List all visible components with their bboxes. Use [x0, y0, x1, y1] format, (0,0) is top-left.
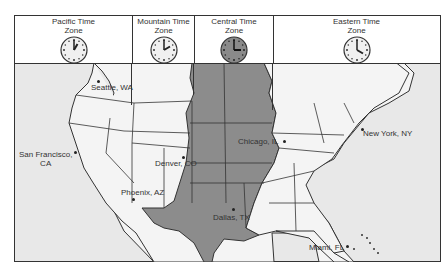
zone-label: Central TimeZone — [195, 17, 273, 35]
zone-mountain: Mountain TimeZone — [132, 16, 194, 63]
clock-icon — [218, 35, 250, 65]
city-label-seattle: Seattle, WA — [91, 83, 133, 92]
clock-icon — [341, 35, 373, 65]
us-time-zone-map — [14, 63, 441, 262]
clock-icon — [58, 35, 90, 65]
city-marker-dallas — [232, 208, 235, 211]
zone-central: Central TimeZone — [194, 16, 273, 63]
city-marker-phoenix — [132, 198, 135, 201]
zone-pacific: Pacific TimeZone — [15, 16, 132, 63]
zone-eastern: Eastern TimeZone — [273, 16, 439, 63]
zone-label: Pacific TimeZone — [15, 17, 132, 35]
city-marker-san-francisco — [74, 151, 77, 154]
clock-icon — [148, 35, 180, 65]
city-label-san-francisco: San Francisco,CA — [19, 150, 72, 168]
city-marker-miami — [346, 245, 349, 248]
bahamas-islands — [353, 234, 379, 254]
city-label-phoenix: Phoenix, AZ — [121, 188, 164, 197]
city-label-miami: Miami, FL — [309, 243, 344, 252]
time-zone-header: Pacific TimeZone Mountain TimeZone Centr… — [14, 15, 441, 64]
zone-label: Mountain TimeZone — [133, 17, 194, 35]
city-label-chicago: Chicago, IL — [238, 137, 278, 146]
city-label-dallas: Dallas, TX — [213, 213, 250, 222]
city-label-new-york: New York, NY — [363, 129, 412, 138]
zone-label: Eastern TimeZone — [274, 17, 439, 35]
city-marker-chicago — [283, 140, 286, 143]
city-label-denver: Denver, CO — [155, 159, 197, 168]
